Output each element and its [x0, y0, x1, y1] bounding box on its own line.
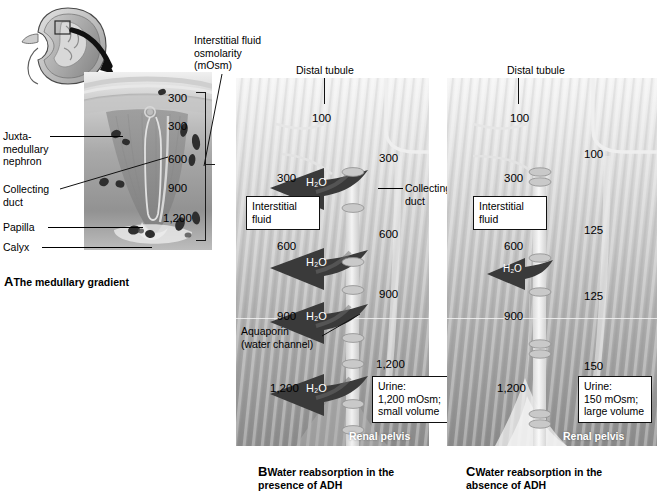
panel-b-interstitial-fluid-box: Interstitial fluid	[246, 196, 320, 230]
panel-b-tubule-value-2: 900	[379, 288, 398, 300]
panel-b-caption-text: Water reabsorption in the presence of AD…	[258, 466, 394, 491]
panel-a-medullary-gradient: 300 300 600 900 1,200 Interstitial fluid…	[0, 0, 228, 285]
water-arrow-label-2: H₂O	[306, 256, 327, 268]
panel-c-caption: CWater reabsorption in the absence of AD…	[466, 452, 602, 492]
panel-c-interstitial-value-1: 600	[504, 240, 523, 252]
panel-c-distal-tubule-value: 100	[510, 112, 529, 124]
leader-calyx	[42, 247, 152, 248]
panel-b-renal-pelvis-label: Renal pelvis	[349, 430, 410, 442]
panel-b-aquaporin-label: Aquaporin (water channel)	[241, 325, 333, 350]
panel-c-interstitial-value-3: 1,200	[497, 382, 526, 394]
osmolarity-title-leader	[196, 74, 236, 170]
panel-c-urine-box: Urine: 150 mOsm; large volume	[578, 376, 652, 423]
panel-b-interstitial-value-1: 600	[277, 240, 296, 252]
panel-c-caption-text: Water reabsorption in the absence of ADH	[466, 466, 602, 491]
panel-c-distal-tubule-leader	[518, 78, 519, 104]
panel-a-label-papilla: Papilla	[3, 221, 35, 234]
panel-b-distal-tubule-value: 100	[312, 112, 331, 124]
panel-c-interstitial-value-0: 300	[504, 172, 523, 184]
panel-c-renal-pelvis-label: Renal pelvis	[563, 430, 624, 442]
panel-b-tubule-value-3: 1,200	[376, 358, 405, 370]
panel-a-scale-value-2: 600	[168, 153, 187, 165]
panel-a-scale-value-4: 1,200	[163, 212, 192, 224]
panel-a-scale-value-0: 300	[168, 92, 187, 104]
panel-b-distal-tubule-label: Distal tubule	[296, 64, 354, 77]
panel-a-caption-text: The medullary gradient	[13, 276, 129, 288]
panel-c-tubule-value-0: 100	[584, 148, 603, 160]
panel-b-collecting-duct-leader	[378, 188, 403, 189]
panel-c-interstitial-value-2: 900	[504, 310, 523, 322]
panel-c-caption-letter: C	[466, 464, 475, 479]
panel-b-tubule-value-0: 300	[379, 152, 398, 164]
panel-c-tubule-value-1: 125	[584, 224, 603, 236]
panel-c-interstitial-fluid-box: Interstitial fluid	[473, 196, 547, 230]
panel-b-urine-box: Urine: 1,200 mOsm; small volume	[372, 376, 450, 423]
leader-collecting-duct	[60, 155, 170, 193]
panel-a-scale-value-3: 900	[168, 182, 187, 194]
panel-c-distal-tubule-label: Distal tubule	[507, 64, 565, 77]
panel-b-tubule-value-1: 600	[379, 228, 398, 240]
panel-b-distal-tubule-leader	[324, 78, 325, 104]
panel-b-caption-letter: B	[258, 464, 267, 479]
panel-b-aquaporin-leader	[322, 314, 364, 340]
panel-b-interstitial-value-3: 1,200	[270, 382, 299, 394]
leader-papilla	[48, 227, 143, 228]
panel-c-tubule-value-2: 125	[584, 290, 603, 302]
panel-c-tubule-value-3: 150	[584, 360, 603, 372]
water-arrow-label-1: H₂O	[306, 176, 327, 188]
panel-a-caption-letter: A	[4, 274, 13, 289]
osmolarity-scale-title: Interstitial fluid osmolarity (mOsm)	[194, 34, 290, 72]
leader-juxtamedullary-nephron	[50, 136, 123, 137]
panel-b-interstitial-value-0: 300	[277, 172, 296, 184]
water-arrow-label-c-1: H₂O	[503, 263, 522, 274]
panel-a-caption: AThe medullary gradient	[4, 262, 129, 289]
water-arrow-label-4: H₂O	[306, 382, 327, 394]
panel-a-scale-value-1: 300	[168, 120, 187, 132]
panel-b-interstitial-value-2: 900	[277, 310, 296, 322]
panel-b-caption: BWater reabsorption in the presence of A…	[258, 452, 394, 492]
panel-a-label-calyx: Calyx	[3, 241, 29, 254]
aquaporin-markers-panel-b	[340, 166, 366, 436]
